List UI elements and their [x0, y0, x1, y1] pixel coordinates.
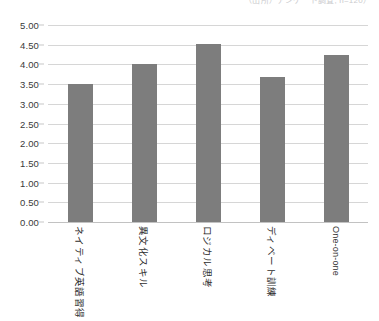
y-axis-tick-label: 4.50: [20, 39, 39, 50]
y-axis-tick-label: 2.00: [20, 138, 39, 149]
x-axis-label-slot: ネイティブ英語習得: [68, 226, 93, 321]
bar[interactable]: [324, 55, 349, 222]
y-axis-tick-mark: [39, 25, 44, 26]
y-axis-tick-mark: [39, 202, 44, 203]
y-axis-tick-mark: [39, 182, 44, 183]
y-axis-tick-mark: [39, 222, 44, 223]
source-note: （出所）アンケート調査, n=120）: [244, 0, 371, 5]
x-axis-label-slot: ディベート訓練: [260, 226, 285, 321]
y-axis-tick-mark: [39, 123, 44, 124]
x-axis-label-slot: ロジカル思考: [196, 226, 221, 321]
gridline: [48, 25, 368, 26]
y-axis-tick-mark: [39, 64, 44, 65]
x-axis-label-slot: 異文化スキル: [132, 226, 157, 321]
y-axis-tick-label: 1.50: [20, 157, 39, 168]
y-axis-tick-mark: [39, 44, 44, 45]
y-axis-tick-label: 4.00: [20, 59, 39, 70]
x-axis-tick-label: ロジカル思考: [201, 226, 215, 288]
x-axis-tick-label: ネイティブ英語習得: [73, 226, 87, 319]
bar[interactable]: [260, 77, 285, 222]
y-axis-tick-mark: [39, 143, 44, 144]
y-axis-tick-mark: [39, 162, 44, 163]
bar[interactable]: [68, 84, 93, 222]
bar[interactable]: [132, 64, 157, 222]
y-axis-tick-label: 3.50: [20, 79, 39, 90]
y-axis-tick-label: 3.00: [20, 98, 39, 109]
x-axis-tick-label: ディベート訓練: [265, 226, 279, 298]
plot-area: [48, 25, 368, 222]
y-axis-tick-label: 1.00: [20, 177, 39, 188]
gridline: [48, 222, 368, 223]
x-axis-label-slot: One-on-one: [324, 226, 349, 321]
x-axis-labels: ネイティブ英語習得異文化スキルロジカル思考ディベート訓練One-on-one: [48, 226, 368, 321]
x-axis-tick-label: One-on-one: [331, 226, 341, 276]
y-axis-tick-label: 2.50: [20, 118, 39, 129]
y-axis-tick-label: 5.00: [20, 20, 39, 31]
y-axis-tick-mark: [39, 103, 44, 104]
bar[interactable]: [196, 44, 221, 222]
x-axis-tick-label: 異文化スキル: [137, 226, 151, 288]
y-axis-tick-label: 0.00: [20, 217, 39, 228]
bar-chart: （出所）アンケート調査, n=120） 0.000.501.001.502.00…: [0, 0, 379, 321]
y-axis-tick-mark: [39, 84, 44, 85]
y-axis: 0.000.501.001.502.002.503.003.504.004.50…: [0, 25, 44, 222]
y-axis-tick-label: 0.50: [20, 197, 39, 208]
